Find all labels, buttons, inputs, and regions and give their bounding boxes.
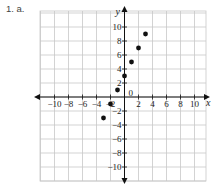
tick-labels: −10−8−6−4−20246810−10−8−6−4−2246810xy [47, 6, 211, 172]
y-tick-label: −2 [112, 106, 122, 116]
data-point [129, 60, 134, 65]
data-point [101, 116, 106, 121]
data-point [108, 102, 113, 107]
y-tick-label: −6 [112, 134, 122, 144]
y-tick-label: 4 [117, 64, 122, 74]
y-tick-label: −4 [112, 120, 122, 130]
x-tick-label: 8 [178, 99, 183, 109]
x-tick-label: −10 [47, 99, 62, 109]
y-tick-label: 2 [117, 78, 122, 88]
data-point [122, 74, 127, 79]
data-point [136, 46, 141, 51]
y-tick-label: −8 [112, 148, 122, 158]
data-point [143, 32, 148, 37]
grid-lines [40, 11, 206, 181]
x-tick-label: 0 [129, 88, 134, 98]
x-tick-label: −8 [64, 99, 74, 109]
y-tick-label: 8 [117, 36, 122, 46]
axes [34, 6, 210, 184]
data-point [115, 88, 120, 93]
x-axis-label: x [205, 97, 211, 108]
y-axis-label: y [115, 6, 121, 17]
x-tick-label: 4 [150, 99, 155, 109]
y-tick-label: 6 [117, 50, 122, 60]
x-axis-left-arrow-icon [34, 94, 40, 100]
x-tick-label: 6 [164, 99, 169, 109]
x-tick-label: −4 [92, 99, 102, 109]
coordinate-plane-chart: −10−8−6−4−20246810−10−8−6−4−2246810xy [0, 0, 218, 187]
x-tick-label: 10 [190, 99, 200, 109]
x-tick-label: 2 [136, 99, 141, 109]
y-tick-label: 10 [113, 22, 123, 32]
y-axis-up-arrow-icon [122, 6, 128, 12]
y-tick-label: −10 [107, 162, 122, 172]
x-tick-label: −6 [78, 99, 88, 109]
